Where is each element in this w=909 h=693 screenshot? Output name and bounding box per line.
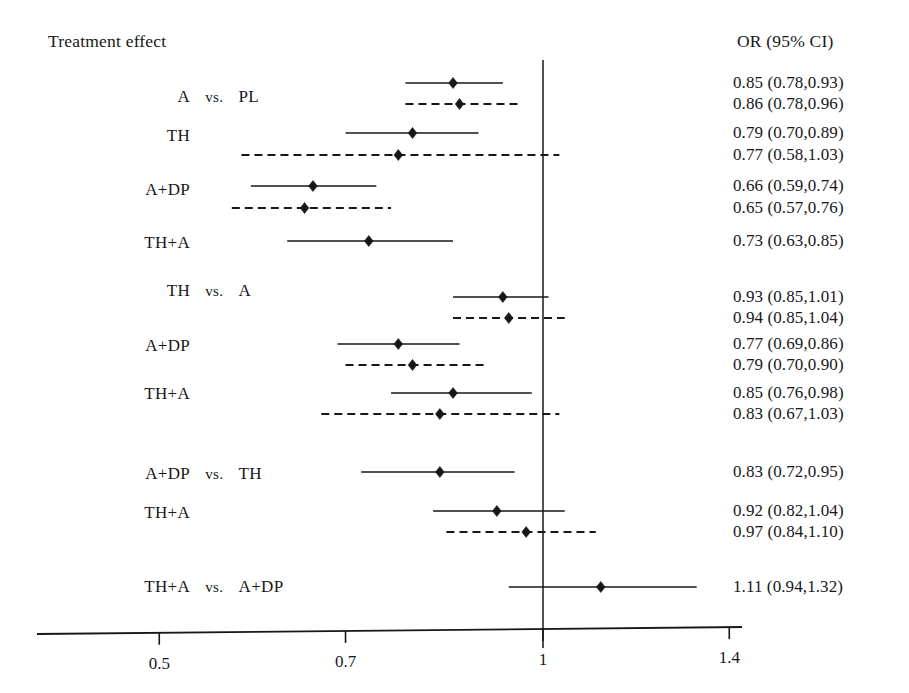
treatment-name: TH (167, 126, 190, 145)
row-label-2: A+DP (145, 181, 190, 198)
or-value-3-0: 0.73 (0.63,0.85) (733, 232, 844, 249)
row-label-7: A+DP vs. TH (145, 465, 262, 482)
point-estimate-marker (394, 149, 403, 160)
x-tick-label-0.5: 0.5 (119, 655, 199, 672)
point-estimate-marker (498, 291, 507, 302)
or-value-9-0: 1.11 (0.94,1.32) (733, 578, 843, 595)
treatment-name: TH (167, 281, 190, 300)
point-estimate-marker (309, 180, 318, 191)
or-value-4-1: 0.94 (0.85,1.04) (733, 309, 844, 326)
treatment-name: TH+A (144, 233, 190, 252)
point-estimate-marker (504, 312, 513, 323)
or-value-1-0: 0.79 (0.70,0.89) (733, 124, 844, 141)
row-label-0: A vs. PL (177, 88, 259, 105)
point-estimate-marker (492, 505, 501, 516)
point-estimate-marker (408, 127, 417, 138)
treatment-name: A+DP (145, 180, 190, 199)
point-estimate-marker (449, 77, 458, 88)
comparator-name: TH (239, 464, 262, 483)
x-tick-label-1.4: 1.4 (689, 649, 769, 666)
comparator-name: PL (239, 87, 259, 106)
treatment-name: A+DP (145, 464, 190, 483)
row-label-3: TH+A (144, 234, 190, 251)
point-estimate-marker (435, 408, 444, 419)
or-value-0-0: 0.85 (0.78,0.93) (733, 74, 844, 91)
or-value-6-0: 0.85 (0.76,0.98) (733, 384, 844, 401)
point-estimate-marker (300, 202, 309, 213)
or-value-1-1: 0.77 (0.58,1.03) (733, 146, 844, 163)
vs-separator: vs. (190, 283, 239, 299)
point-estimate-marker (449, 387, 458, 398)
or-value-7-0: 0.83 (0.72,0.95) (733, 463, 844, 480)
treatment-name: TH+A (144, 503, 190, 522)
treatment-name: TH+A (144, 384, 190, 403)
treatment-name: A (177, 87, 190, 106)
or-value-5-1: 0.79 (0.70,0.90) (733, 356, 844, 373)
treatment-name: A+DP (145, 336, 190, 355)
point-estimate-marker (394, 338, 403, 349)
point-estimate-marker (408, 359, 417, 370)
row-label-9: TH+A vs. A+DP (144, 578, 283, 595)
row-label-5: A+DP (145, 337, 190, 354)
or-value-0-1: 0.86 (0.78,0.96) (733, 95, 844, 112)
x-tick-label-1: 1 (503, 651, 583, 668)
or-value-6-1: 0.83 (0.67,1.03) (733, 405, 844, 422)
vs-separator: vs. (190, 466, 239, 482)
or-value-4-0: 0.93 (0.85,1.01) (733, 288, 844, 305)
comparator-name: A+DP (239, 577, 284, 596)
comparator-name: A (239, 281, 252, 300)
point-estimate-marker (364, 235, 373, 246)
point-estimate-marker (522, 526, 531, 537)
row-label-6: TH+A (144, 385, 190, 402)
row-label-4: TH vs. A (167, 282, 251, 299)
x-tick-label-0.7: 0.7 (306, 653, 386, 670)
treatment-name: TH+A (144, 577, 190, 596)
point-estimate-marker (435, 466, 444, 477)
vs-separator: vs. (190, 89, 239, 105)
row-label-8: TH+A (144, 504, 190, 521)
or-value-2-1: 0.65 (0.57,0.76) (733, 199, 844, 216)
row-label-1: TH (167, 127, 190, 144)
page-title: Treatment effect (48, 33, 166, 51)
or-value-8-0: 0.92 (0.82,1.04) (733, 502, 844, 519)
or-value-2-0: 0.66 (0.59,0.74) (733, 177, 844, 194)
point-estimate-marker (596, 581, 605, 592)
or-value-8-1: 0.97 (0.84,1.10) (733, 523, 844, 540)
or-value-5-0: 0.77 (0.69,0.86) (733, 335, 844, 352)
x-axis-line (37, 627, 742, 634)
vs-separator: vs. (190, 579, 239, 595)
point-estimate-marker (455, 98, 464, 109)
or-column-header: OR (95% CI) (737, 33, 834, 51)
